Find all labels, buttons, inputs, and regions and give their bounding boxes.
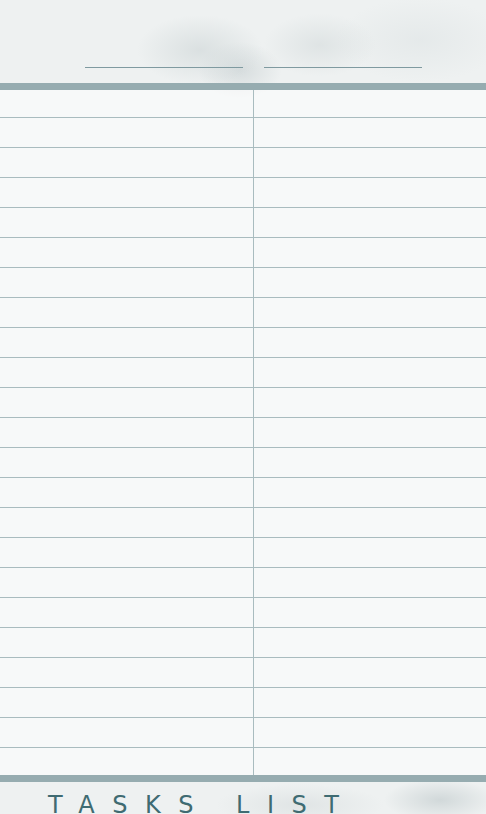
table-row <box>0 148 486 178</box>
task-cell-left[interactable] <box>0 268 253 297</box>
table-row <box>0 178 486 208</box>
task-cell-right[interactable] <box>254 568 486 597</box>
task-cell-left[interactable] <box>0 208 253 237</box>
task-cell-left[interactable] <box>0 238 253 267</box>
header-field-left[interactable] <box>85 67 243 68</box>
table-row <box>0 358 486 388</box>
table-row <box>0 418 486 448</box>
task-cell-left[interactable] <box>0 178 253 207</box>
task-cell-right[interactable] <box>254 508 486 537</box>
top-band <box>0 83 486 90</box>
task-cell-left[interactable] <box>0 568 253 597</box>
table-row <box>0 478 486 508</box>
task-cell-right[interactable] <box>254 658 486 687</box>
task-cell-left[interactable] <box>0 90 253 119</box>
task-cell-left[interactable] <box>0 418 253 447</box>
task-cell-right[interactable] <box>254 478 486 507</box>
table-row <box>0 298 486 328</box>
table-row <box>0 90 486 118</box>
table-row <box>0 658 486 688</box>
task-cell-left[interactable] <box>0 688 253 717</box>
task-cell-right[interactable] <box>254 238 486 267</box>
table-row <box>0 568 486 598</box>
task-cell-right[interactable] <box>254 328 486 357</box>
task-cell-left[interactable] <box>0 658 253 687</box>
task-cell-right[interactable] <box>254 298 486 327</box>
task-cell-right[interactable] <box>254 598 486 627</box>
table-row <box>0 748 486 775</box>
table-row <box>0 688 486 718</box>
bottom-band <box>0 775 486 782</box>
task-cell-left[interactable] <box>0 508 253 537</box>
tasks-list-page: TASKS LIST <box>0 0 486 814</box>
task-cell-right[interactable] <box>254 448 486 477</box>
task-cell-left[interactable] <box>0 388 253 417</box>
table-row <box>0 598 486 628</box>
task-cell-left[interactable] <box>0 748 253 777</box>
task-cell-right[interactable] <box>254 628 486 657</box>
table-row <box>0 508 486 538</box>
table-row <box>0 628 486 658</box>
task-cell-left[interactable] <box>0 538 253 567</box>
task-cell-right[interactable] <box>254 538 486 567</box>
task-cell-left[interactable] <box>0 358 253 387</box>
task-cell-left[interactable] <box>0 328 253 357</box>
task-table <box>0 90 486 775</box>
table-row <box>0 328 486 358</box>
task-cell-right[interactable] <box>254 418 486 447</box>
table-row <box>0 538 486 568</box>
table-row <box>0 448 486 478</box>
task-cell-right[interactable] <box>254 268 486 297</box>
header-field-right[interactable] <box>264 67 422 68</box>
table-row <box>0 238 486 268</box>
task-cell-right[interactable] <box>254 208 486 237</box>
task-cell-left[interactable] <box>0 118 253 147</box>
task-cell-right[interactable] <box>254 388 486 417</box>
task-cell-right[interactable] <box>254 90 486 119</box>
task-cell-left[interactable] <box>0 148 253 177</box>
task-cell-left[interactable] <box>0 298 253 327</box>
task-cell-right[interactable] <box>254 688 486 717</box>
table-row <box>0 208 486 238</box>
task-cell-left[interactable] <box>0 718 253 747</box>
task-cell-left[interactable] <box>0 598 253 627</box>
task-cell-left[interactable] <box>0 448 253 477</box>
page-title: TASKS LIST <box>48 791 356 814</box>
task-cell-right[interactable] <box>254 148 486 177</box>
task-cell-right[interactable] <box>254 118 486 147</box>
table-row <box>0 718 486 748</box>
table-row <box>0 388 486 418</box>
task-cell-right[interactable] <box>254 358 486 387</box>
table-row <box>0 118 486 148</box>
task-cell-left[interactable] <box>0 478 253 507</box>
task-cell-right[interactable] <box>254 178 486 207</box>
table-row <box>0 268 486 298</box>
task-cell-right[interactable] <box>254 748 486 777</box>
task-cell-right[interactable] <box>254 718 486 747</box>
task-cell-left[interactable] <box>0 628 253 657</box>
